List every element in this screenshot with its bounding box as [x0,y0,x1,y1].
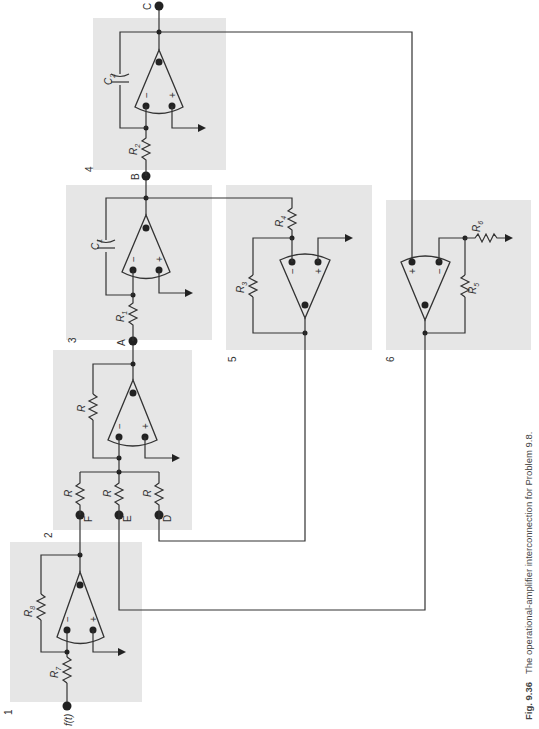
svg-text:−: − [62,616,73,622]
figure-caption: Fig. 9.36The operational-amplifier inter… [523,432,534,720]
svg-text:+: + [407,268,418,274]
block-label-5: 5 [227,356,238,362]
block-label-6: 6 [385,356,396,362]
circuit-diagram: 1 2 3 4 5 6 f(t) R7 R8 R R R R F E D A B… [0,0,539,729]
input-node [63,702,72,711]
block-1-background [10,542,142,702]
block-label-1: 1 [3,709,14,715]
block-6-background [386,200,531,350]
svg-text:R: R [63,490,74,497]
svg-text:−: − [141,92,152,98]
svg-text:−: − [128,256,139,262]
block-5-background [226,185,372,350]
svg-text:R: R [102,490,113,497]
svg-text:+: + [140,423,151,429]
input-label: f(t) [63,714,74,726]
node-label-a: A [116,339,127,346]
svg-text:+: + [313,268,324,274]
svg-text:R: R [76,405,87,412]
node-label-e: E [122,515,133,522]
block-2-background [53,350,192,530]
node-label-d: D [162,515,173,522]
block-label-2: 2 [43,532,54,538]
node-c [155,2,164,11]
block-label-4: 4 [84,166,95,172]
svg-text:+: + [88,616,99,622]
svg-text:−: − [287,268,298,274]
svg-text:−: − [434,268,445,274]
svg-text:−: − [114,423,125,429]
node-label-f: F [83,516,94,522]
node-label-c: C [142,3,153,10]
block-3-background [66,185,212,340]
svg-text:R: R [142,490,153,497]
svg-text:+: + [167,92,178,98]
svg-text:+: + [154,256,165,262]
block-label-3: 3 [67,337,78,343]
node-label-b: B [130,173,141,180]
